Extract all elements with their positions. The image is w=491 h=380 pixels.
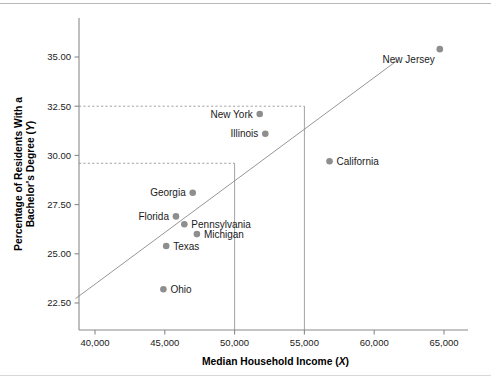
data-point-label: Michigan (204, 229, 244, 240)
y-tick-label: 22.50 (47, 297, 71, 308)
y-tick-label: 32.50 (47, 101, 71, 112)
data-point-label: California (337, 156, 380, 167)
data-point[interactable] (326, 158, 333, 165)
y-tick-label: 25.00 (47, 248, 71, 259)
regression-line (75, 60, 397, 299)
data-point[interactable] (194, 231, 201, 238)
data-point[interactable] (181, 221, 188, 228)
scatter-chart: 22.5025.0027.5030.0032.5035.0040,00045,0… (0, 0, 491, 380)
y-axis-title-line1: Percentage of Residents With a (13, 97, 24, 251)
y-axis-title-line2: Bachelor's Degree (Y) (25, 121, 36, 228)
data-point[interactable] (163, 243, 170, 250)
data-point[interactable] (173, 213, 180, 220)
x-tick-label: 60,000 (360, 337, 389, 348)
y-tick-label: 35.00 (47, 51, 71, 62)
data-point-label: Ohio (170, 284, 192, 295)
data-point[interactable] (189, 189, 196, 196)
y-tick-label: 27.50 (47, 199, 71, 210)
x-tick-label: 55,000 (290, 337, 319, 348)
x-axis-title: Median Household Income (X) (202, 356, 349, 367)
x-tick-label: 45,000 (150, 337, 179, 348)
data-point-label: New Jersey (383, 54, 435, 65)
x-tick-label: 40,000 (80, 337, 109, 348)
x-tick-label: 50,000 (220, 337, 249, 348)
data-point[interactable] (256, 111, 263, 118)
data-point-label: New York (210, 109, 253, 120)
data-point[interactable] (160, 286, 167, 293)
data-point-label: Texas (173, 241, 199, 252)
y-tick-label: 30.00 (47, 150, 71, 161)
data-point[interactable] (262, 130, 269, 137)
plot-svg: 22.5025.0027.5030.0032.5035.0040,00045,0… (0, 0, 491, 380)
data-point-label: Illinois (231, 128, 259, 139)
x-tick-label: 65,000 (429, 337, 458, 348)
data-point[interactable] (437, 46, 444, 53)
data-point-label: Georgia (150, 187, 186, 198)
data-point-label: Florida (138, 211, 169, 222)
